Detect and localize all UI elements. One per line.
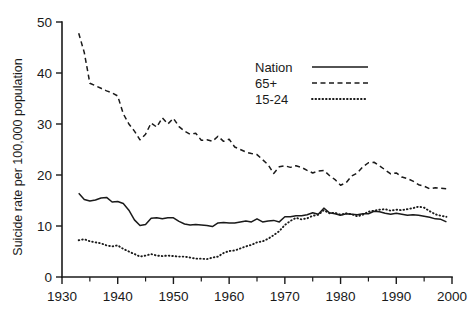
y-tick-label: 40: [37, 66, 52, 81]
chart-container: 01020304050 1930194019501960197019801990…: [0, 0, 471, 314]
y-tick-label: 50: [37, 15, 52, 30]
chart-legend: Nation65+15-24: [255, 60, 368, 107]
x-tick-label: 1960: [214, 289, 244, 304]
x-tick-label: 1990: [381, 289, 411, 304]
y-tick-label: 30: [37, 117, 52, 132]
y-tick-label: 10: [37, 219, 52, 234]
x-tick-label: 1950: [158, 289, 188, 304]
legend-label-15-24: 15-24: [255, 92, 288, 107]
y-axis-tick-labels: 01020304050: [37, 15, 52, 285]
y-tick-label: 20: [37, 168, 52, 183]
x-tick-label: 1970: [270, 289, 300, 304]
y-axis-title: Suicide rate per 100,000 population: [11, 58, 25, 255]
axes: 01020304050 1930194019501960197019801990…: [37, 15, 467, 304]
x-axis-tick-labels: 19301940195019601970198019902000: [47, 289, 467, 304]
series-line-65-: [79, 33, 447, 189]
series-line-nation: [79, 193, 447, 226]
x-tick-label: 1980: [326, 289, 356, 304]
legend-label-nation: Nation: [255, 60, 293, 75]
y-axis-ticks: [56, 22, 62, 277]
x-tick-label: 1930: [47, 289, 77, 304]
x-tick-label: 2000: [437, 289, 467, 304]
line-chart: 01020304050 1930194019501960197019801990…: [0, 0, 471, 314]
x-tick-label: 1940: [103, 289, 133, 304]
y-tick-label: 0: [44, 270, 52, 285]
x-axis-ticks: [62, 277, 452, 284]
legend-label-65-: 65+: [255, 76, 277, 91]
